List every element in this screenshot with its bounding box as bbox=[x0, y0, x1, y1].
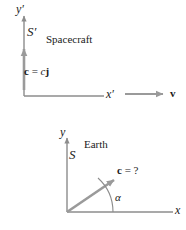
top-frame-label: S′ bbox=[27, 25, 36, 38]
top-frame-caption: Spacecraft bbox=[46, 34, 92, 45]
top-equals-symbol: = bbox=[29, 65, 41, 77]
bottom-angle-label: α bbox=[115, 192, 121, 203]
top-x-axis-label: x′ bbox=[106, 88, 114, 100]
bottom-frame-caption: Earth bbox=[84, 139, 108, 150]
bottom-frame-label: S bbox=[69, 148, 76, 161]
bottom-light-vector-label: c = ? bbox=[117, 165, 139, 176]
top-j-unit-vector-symbol: j bbox=[46, 65, 50, 77]
bottom-equals-symbol: = bbox=[122, 164, 134, 176]
bottom-x-axis-label: x bbox=[175, 204, 180, 216]
top-velocity-label: v bbox=[170, 88, 176, 99]
bottom-unknown-symbol: ? bbox=[134, 164, 139, 176]
bottom-light-vector-c bbox=[67, 180, 114, 212]
top-light-vector-label: c = cj bbox=[24, 66, 49, 77]
bottom-y-axis-label: y bbox=[60, 126, 65, 138]
physics-diagram-figure: y′ S′ Spacecraft c = cj x′ v y S Earth c… bbox=[0, 0, 186, 230]
top-y-axis-label: y′ bbox=[16, 3, 24, 15]
